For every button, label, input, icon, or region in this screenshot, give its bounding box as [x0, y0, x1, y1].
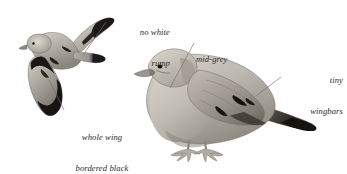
- flying-dove-head: [27, 34, 51, 53]
- annotation-tiny-wingbars: tiny wingbars: [283, 55, 343, 137]
- annotation-line: mid-grey: [196, 54, 248, 64]
- annotation-line: wingbars: [283, 106, 343, 116]
- annotation-line: whole wing: [60, 132, 144, 142]
- annotation-line: bordered black: [60, 163, 144, 173]
- perched-dove-foot-right-shape: [194, 149, 223, 162]
- bird-identification-plate: no white rump whole wing bordered black …: [0, 0, 347, 174]
- annotation-line: rump: [108, 58, 170, 68]
- annotation-line: no white: [108, 27, 170, 37]
- annotation-whole-wing-bordered-black: whole wing bordered black: [60, 112, 144, 174]
- flying-dove-eye: [32, 42, 34, 44]
- annotation-mid-grey: mid-grey: [196, 34, 248, 85]
- figure-dove-in-flight: [19, 18, 114, 116]
- flying-dove-bill: [19, 45, 27, 49]
- annotation-line: tiny: [283, 75, 343, 85]
- annotation-no-white-rump: no white rump: [108, 7, 170, 89]
- perched-dove-foot-left-shape: [171, 149, 200, 162]
